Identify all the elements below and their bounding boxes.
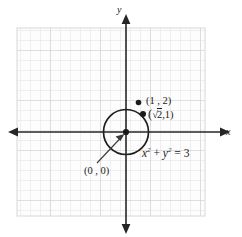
y-axis-label: y xyxy=(117,5,121,15)
circle-equation-label: x2 + y2 = 3 xyxy=(142,148,189,160)
origin-label: (0 , 0) xyxy=(84,166,109,177)
point-origin-marker xyxy=(123,129,129,135)
x-axis-label: x xyxy=(226,127,230,137)
grid-background xyxy=(16,27,206,217)
equation-plus: + xyxy=(151,147,163,159)
point-sqrt2-1-label: (√2,1) xyxy=(148,108,174,121)
equation-equals-three: = 3 xyxy=(171,147,189,159)
point-1-2-marker xyxy=(136,100,142,106)
graph-figure: y x (1 , 2) (√2,1) (0 , 0) x2 + y2 = 3 xyxy=(0,0,242,237)
point-1-2-label: (1 , 2) xyxy=(146,96,171,107)
coordinate-plane-svg xyxy=(0,0,242,237)
pair-rest: ,1) xyxy=(162,109,173,120)
point-sqrt2-1-marker xyxy=(140,111,146,117)
